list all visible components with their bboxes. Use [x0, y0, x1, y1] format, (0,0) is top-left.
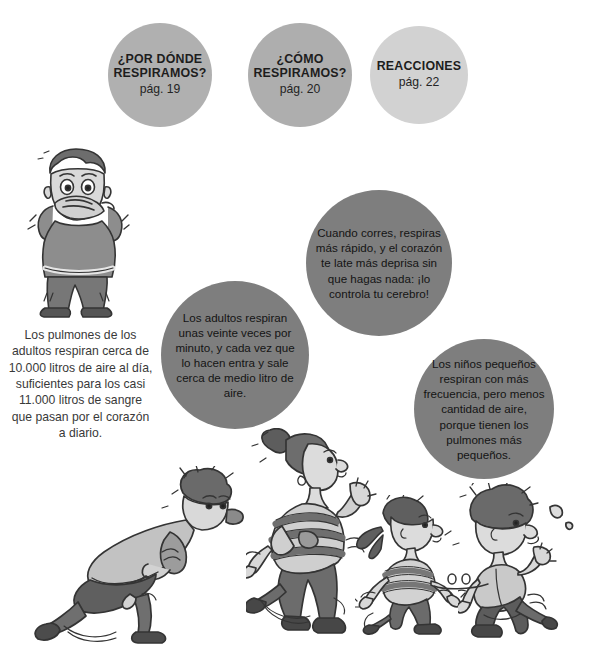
nav-circle-page-label: pág. 19 [140, 82, 181, 97]
nav-circle-como-respiramos[interactable]: ¿CÓMO RESPIRAMOS? pág. 20 [248, 23, 352, 127]
nav-circle-por-donde-respiramos[interactable]: ¿POR DÓNDE RESPIRAMOS? pág. 19 [108, 23, 212, 127]
fact-circle-text: Los adultos respiran unas veinte veces p… [161, 310, 309, 400]
running-little-girl-illustration [355, 495, 471, 635]
nav-circle-title: REACCIONES [377, 60, 462, 74]
fact-circle-los-ninos: Los niños pequeños respiran con más frec… [414, 339, 554, 479]
nav-circle-reacciones[interactable]: REACCIONES pág. 22 [370, 26, 468, 124]
fact-circle-text: Cuando corres, respiras más rápido, y el… [306, 225, 452, 300]
nav-circle-title: ¿POR DÓNDE RESPIRAMOS? [108, 53, 212, 81]
nav-circle-page-label: pág. 22 [399, 75, 440, 90]
side-paragraph-pulmones: Los pulmones de los adultos respiran cer… [8, 327, 153, 441]
page-root: ¿POR DÓNDE RESPIRAMOS? pág. 19 ¿CÓMO RES… [0, 0, 595, 658]
fact-circle-los-adultos: Los adultos respiran unas veinte veces p… [161, 281, 309, 429]
boy-hands-to-mouth-illustration [22, 143, 130, 318]
fact-circle-text: Los niños pequeños respiran con más frec… [414, 356, 554, 461]
nav-circle-page-label: pág. 20 [280, 82, 321, 97]
nav-circle-title: ¿CÓMO RESPIRAMOS? [248, 53, 352, 81]
ground-scuff-marks [430, 570, 500, 596]
running-boy-leaning-illustration [34, 466, 249, 644]
fact-circle-cuando-corres: Cuando corres, respiras más rápido, y el… [306, 190, 452, 336]
running-boy-illustration [458, 483, 588, 638]
